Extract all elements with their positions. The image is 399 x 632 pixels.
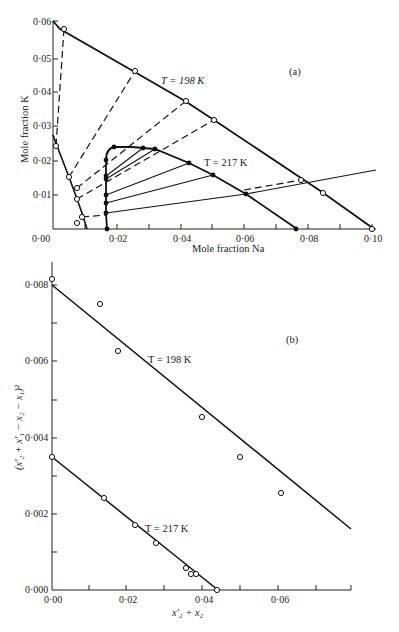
chart-b-198k-points (49, 276, 283, 495)
chart-b-x-axis-title: x'₂ + x₂ (171, 607, 204, 618)
chart-b-xtick-0.06: 0·06 (271, 594, 289, 605)
chart-a-198k-tie-lines (56, 29, 301, 217)
chart-a-ytick-0.01: 0·01 (33, 189, 51, 200)
chart-a-panel-label: (a) (289, 66, 301, 78)
chart-a-ytick-0.00: 0·00 (32, 233, 50, 244)
chart-b-label-198k: T = 198 K (148, 354, 192, 365)
chart-b-y-axis-title: (x'₂ + x'₁ − x₂ − x₁)² (13, 384, 25, 470)
chart-b-ytick-0.004: 0·004 (25, 432, 48, 443)
chart-a-217k-boundary (106, 147, 297, 229)
chart-b-ytick-0.008: 0·008 (25, 279, 48, 290)
chart-a-198k-points (53, 26, 374, 231)
chart-a-xtick-0.10: 0·10 (364, 233, 382, 244)
chart-a-ytick-0.06: 0·06 (33, 16, 51, 27)
chart-a-xtick-0.04: 0·04 (173, 233, 191, 244)
chart-a-label-217k: T = 217 K (204, 157, 248, 168)
chart-a: 0·00 0·01 0·02 0·03 0·04 0·05 0·06 0·02 … (19, 16, 382, 254)
chart-a-y-ticks (53, 21, 58, 195)
chart-b-xtick-0.04: 0·04 (195, 594, 213, 605)
chart-a-x-ticks (85, 224, 372, 229)
chart-a-x-axis-title: Mole fraction Na (192, 243, 265, 254)
chart-b-ytick-0.006: 0·006 (25, 355, 48, 366)
chart-a-y-axis-title: Mole fraction K (19, 95, 30, 163)
chart-a-ytick-0.03: 0·03 (33, 120, 51, 131)
chart-a-ytick-0.02: 0·02 (33, 155, 51, 166)
chart-a-label-198k: T = 198 K (161, 75, 205, 86)
figure: 0·00 0·01 0·02 0·03 0·04 0·05 0·06 0·02 … (0, 0, 399, 632)
chart-b: 0·000 0·002 0·004 0·006 0·008 0·00 0·02 … (13, 262, 351, 618)
chart-a-xtick-0.08: 0·08 (300, 233, 318, 244)
chart-b-y-ticks (52, 285, 57, 552)
chart-b-xtick-0.02: 0·02 (119, 594, 137, 605)
chart-a-ytick-0.05: 0·05 (33, 53, 51, 64)
chart-a-xtick-0.02: 0·02 (109, 233, 127, 244)
chart-a-ytick-0.04: 0·04 (33, 86, 51, 97)
chart-b-xtick-0.00: 0·00 (44, 594, 62, 605)
chart-b-ytick-0.002: 0·002 (25, 508, 48, 519)
chart-b-label-217k: T = 217 K (145, 523, 189, 534)
chart-b-panel-label: (b) (286, 334, 299, 346)
